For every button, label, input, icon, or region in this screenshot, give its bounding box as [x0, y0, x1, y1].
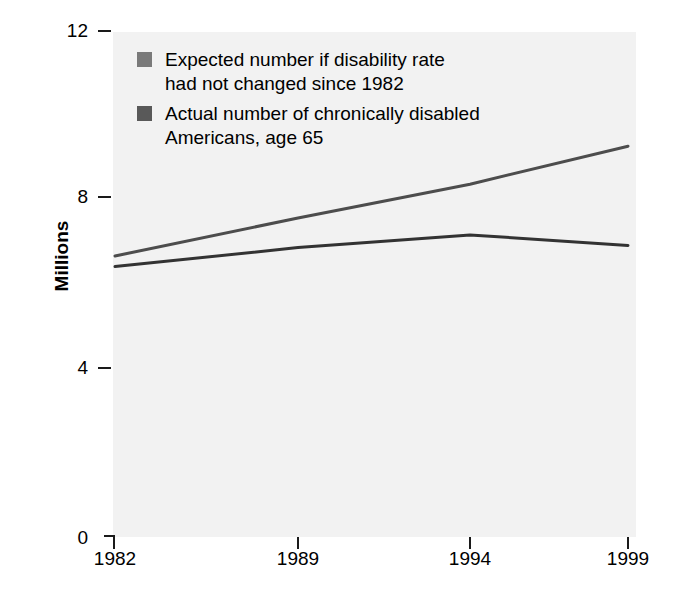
x-tick-label-1999: 1999: [583, 548, 673, 570]
x-axis-origin-mark-v: [113, 535, 115, 549]
y-tick-label-4: 4: [28, 357, 88, 379]
legend: Expected number if disability rate had n…: [137, 48, 537, 156]
legend-entry-expected: Expected number if disability rate had n…: [137, 48, 537, 96]
y-tick-mark-12: [98, 30, 111, 32]
y-tick-label-8: 8: [28, 186, 88, 208]
y-tick-label-12: 12: [28, 20, 88, 42]
y-tick-mark-8: [98, 196, 111, 198]
legend-label-expected: Expected number if disability rate had n…: [165, 48, 445, 96]
legend-swatch-icon-expected: [137, 52, 152, 67]
y-tick-label-0: 0: [28, 527, 88, 549]
x-tick-label-1982: 1982: [70, 548, 160, 570]
y-tick-mark-4: [98, 367, 111, 369]
legend-label-actual: Actual number of chronically disabled Am…: [165, 102, 480, 150]
x-tick-label-1994: 1994: [425, 548, 515, 570]
x-tick-label-1989: 1989: [253, 548, 343, 570]
legend-swatch-icon-actual: [137, 106, 152, 121]
legend-entry-actual: Actual number of chronically disabled Am…: [137, 102, 537, 150]
chart-figure: Millions 12 8 4 0 1982 1989 1994 1999 Ex…: [0, 0, 679, 591]
